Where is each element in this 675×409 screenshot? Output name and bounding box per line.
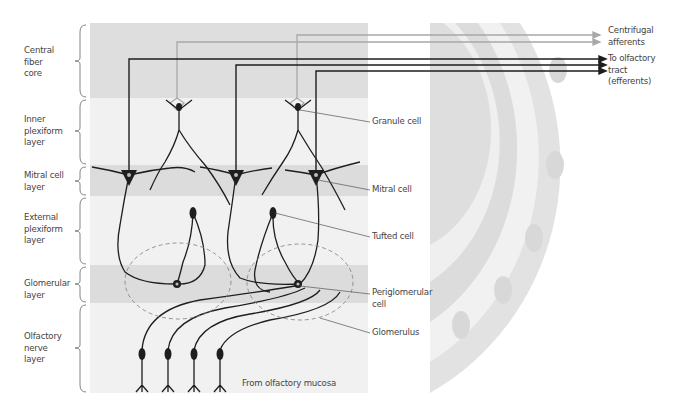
callout-periglomerular-cell: Periglomerular cell bbox=[372, 287, 432, 310]
layer-label-mitral-cell: Mitral cell layer bbox=[24, 170, 64, 193]
olfactory-bulb-diagram: Central fiber core Inner plexiform layer… bbox=[0, 0, 675, 409]
diagram-canvas bbox=[0, 0, 675, 409]
layer-braces bbox=[75, 25, 86, 392]
layer-label-glomerular: Glomerular layer bbox=[24, 278, 70, 301]
layer-label-olfactory-nerve: Olfactory nerve layer bbox=[24, 331, 62, 366]
layer-label-external-plexiform: External plexiform layer bbox=[24, 212, 63, 247]
label-centrifugal-afferents: Centrifugal afferents bbox=[608, 25, 653, 48]
callout-mitral-cell: Mitral cell bbox=[372, 184, 412, 196]
callout-glomerulus: Glomerulus bbox=[372, 327, 419, 339]
label-efferents-olfactory-tract: To olfactory tract (efferents) bbox=[608, 53, 655, 88]
layer-label-central-fiber-core: Central fiber core bbox=[24, 45, 54, 80]
callout-from-olfactory-mucosa: From olfactory mucosa bbox=[242, 378, 336, 390]
layer-label-inner-plexiform: Inner plexiform layer bbox=[24, 114, 63, 149]
callout-granule-cell: Granule cell bbox=[372, 116, 421, 128]
bulb-cross-section bbox=[430, 23, 567, 393]
callout-tufted-cell: Tufted cell bbox=[372, 231, 414, 243]
